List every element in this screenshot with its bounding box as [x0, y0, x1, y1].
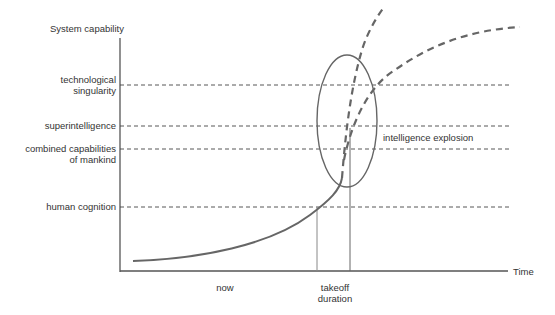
- explosion-curve-steep: [342, 6, 385, 178]
- level-label-combined-mankind: combined capabilities of mankind: [0, 143, 116, 165]
- takeoff-label-line: takeoff: [307, 282, 363, 293]
- intelligence-explosion-ellipse: [317, 55, 377, 187]
- takeoff-label-line: duration: [307, 293, 363, 304]
- x-label-now: now: [205, 282, 245, 293]
- level-label-singularity: technological singularity: [0, 74, 116, 96]
- level-label-human-cognition: human cognition: [0, 201, 116, 212]
- x-axis-label: Time: [513, 266, 534, 277]
- level-label-line: combined capabilities: [0, 143, 116, 154]
- level-label-line: singularity: [0, 85, 116, 96]
- level-label-line: technological: [0, 74, 116, 85]
- intelligence-explosion-label: intelligence explosion: [383, 132, 473, 143]
- level-label-superintelligence: superintelligence: [0, 120, 116, 131]
- y-axis-label: System capability: [32, 23, 142, 34]
- capability-curve: [133, 178, 342, 261]
- level-label-line: of mankind: [0, 154, 116, 165]
- x-label-takeoff-duration: takeoff duration: [307, 282, 363, 304]
